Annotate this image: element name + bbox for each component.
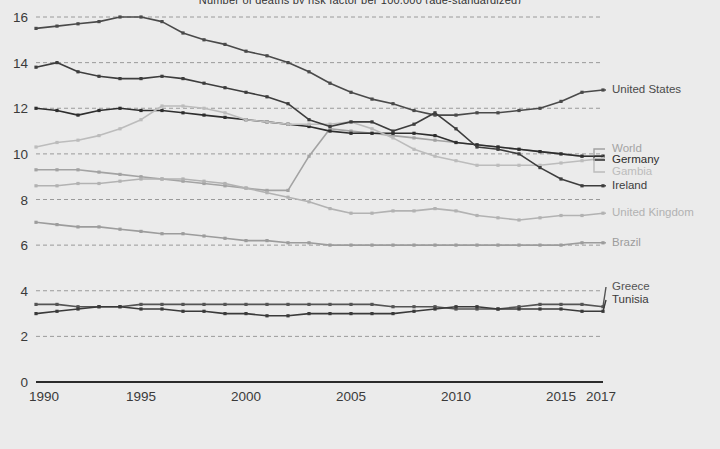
data-point-marker [181, 77, 184, 80]
data-point-marker [412, 209, 415, 212]
data-point-marker [118, 77, 121, 80]
data-point-marker [76, 114, 79, 117]
data-point-marker [349, 120, 352, 123]
data-point-marker [307, 241, 310, 244]
data-point-marker [370, 120, 373, 123]
data-point-marker [349, 132, 352, 135]
data-point-marker [223, 182, 226, 185]
legend-label-ireland[interactable]: Ireland [612, 179, 647, 191]
x-axis-tick-label: 2005 [336, 389, 366, 404]
y-axis-tick-label: 10 [13, 147, 28, 162]
legend-label-united-states[interactable]: United States [612, 83, 681, 95]
data-point-marker [181, 232, 184, 235]
data-point-marker [118, 180, 121, 183]
legend-label-tunisia[interactable]: Tunisia [612, 293, 649, 305]
x-axis-tick-label: 2015 [546, 389, 576, 404]
data-point-marker [55, 141, 58, 144]
data-point-marker [181, 31, 184, 34]
data-point-marker [475, 214, 478, 217]
legend-label-united-kingdom[interactable]: United Kingdom [612, 206, 694, 218]
legend-label-brazil[interactable]: Brazil [612, 236, 641, 248]
data-point-marker [559, 214, 562, 217]
data-point-marker [34, 303, 37, 306]
data-point-marker [265, 303, 268, 306]
legend-label-greece[interactable]: Greece [612, 280, 650, 292]
data-point-marker [517, 307, 520, 310]
data-point-marker [181, 177, 184, 180]
data-point-marker [97, 182, 100, 185]
data-point-marker [244, 50, 247, 53]
data-point-marker [328, 130, 331, 133]
data-point-marker [55, 61, 58, 64]
y-axis-tick-label: 2 [20, 329, 28, 344]
data-point-marker [97, 109, 100, 112]
data-point-marker [328, 82, 331, 85]
data-point-marker [202, 114, 205, 117]
data-point-marker [202, 303, 205, 306]
data-point-marker [265, 120, 268, 123]
data-point-marker [391, 209, 394, 212]
data-point-marker [307, 155, 310, 158]
data-point-marker [55, 303, 58, 306]
data-point-marker [496, 148, 499, 151]
data-point-marker [160, 20, 163, 23]
data-point-marker [412, 132, 415, 135]
data-point-marker [328, 125, 331, 128]
data-point-marker [76, 182, 79, 185]
x-axis-ticks: 1990199520002005201020152017 [29, 389, 616, 404]
data-point-marker [517, 218, 520, 221]
y-axis-tick-label: 8 [20, 193, 28, 208]
data-point-marker [307, 70, 310, 73]
legend-label-germany[interactable]: Germany [612, 153, 660, 165]
x-axis-tick-label: 2010 [441, 389, 471, 404]
data-point-marker [496, 216, 499, 219]
data-point-marker [34, 168, 37, 171]
data-point-marker [76, 307, 79, 310]
data-point-marker [559, 307, 562, 310]
data-point-marker [202, 82, 205, 85]
data-point-marker [223, 312, 226, 315]
y-axis-ticks: 0246810121416 [13, 10, 29, 390]
data-point-marker [538, 303, 541, 306]
data-point-marker [559, 244, 562, 247]
data-point-marker [55, 25, 58, 28]
data-point-marker [349, 91, 352, 94]
y-axis-tick-label: 16 [13, 10, 28, 25]
data-point-marker [181, 111, 184, 114]
data-point-marker [244, 239, 247, 242]
data-point-marker [412, 244, 415, 247]
data-point-marker [370, 244, 373, 247]
data-point-marker [559, 100, 562, 103]
data-point-marker [370, 312, 373, 315]
data-point-marker [34, 184, 37, 187]
data-point-marker [454, 141, 457, 144]
data-point-marker [202, 107, 205, 110]
data-point-marker [328, 244, 331, 247]
data-point-marker [370, 303, 373, 306]
data-point-marker [538, 166, 541, 169]
legend-group: United StatesWorldGermanyGambiaIrelandUn… [594, 83, 694, 311]
data-point-marker [475, 145, 478, 148]
legend-label-gambia[interactable]: Gambia [612, 165, 653, 177]
data-point-marker [328, 312, 331, 315]
data-point-marker [160, 104, 163, 107]
data-point-marker [412, 123, 415, 126]
data-point-marker [244, 187, 247, 190]
y-axis-tick-label: 6 [20, 238, 28, 253]
data-point-marker [76, 70, 79, 73]
data-point-marker [160, 109, 163, 112]
data-point-marker [517, 109, 520, 112]
data-point-marker [160, 75, 163, 78]
data-point-marker [97, 225, 100, 228]
data-point-marker [55, 168, 58, 171]
data-point-marker [265, 54, 268, 57]
data-point-marker [139, 303, 142, 306]
data-point-marker [286, 189, 289, 192]
data-point-marker [496, 307, 499, 310]
series-line-brazil [36, 222, 603, 245]
data-point-marker [223, 111, 226, 114]
data-point-marker [34, 312, 37, 315]
data-point-marker [475, 164, 478, 167]
data-series-group [34, 15, 604, 317]
data-point-marker [244, 312, 247, 315]
